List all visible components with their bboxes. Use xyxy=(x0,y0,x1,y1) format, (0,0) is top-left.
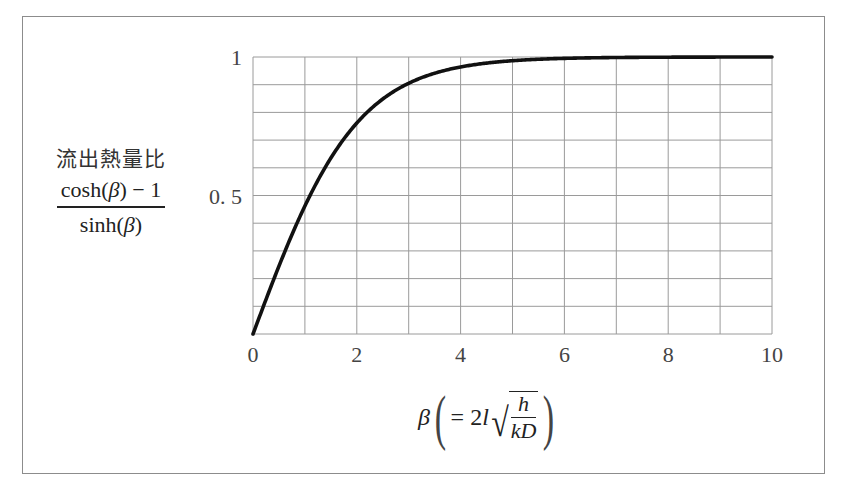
numerator-func: cosh( xyxy=(61,177,109,202)
x-axis-symbol-beta: β xyxy=(418,404,430,431)
sqrt-numerator: h xyxy=(518,392,529,416)
denominator-tail: ) xyxy=(135,212,142,237)
x-tick-label: 10 xyxy=(761,342,783,367)
formula-denominator: sinh(β) xyxy=(57,211,165,239)
x-tick-label: 4 xyxy=(455,342,466,367)
x-tick-label: 8 xyxy=(663,342,674,367)
x-axis-l: l xyxy=(482,404,489,431)
y-axis-tick-labels: 0. 51 xyxy=(209,45,242,209)
x-axis-label: β ( = 2l √ h kD ) xyxy=(418,382,559,452)
y-axis-label: 流出熱量比 cosh(β) − 1 sinh(β) xyxy=(36,146,186,239)
x-tick-label: 6 xyxy=(559,342,570,367)
sqrt-fraction: h kD xyxy=(509,391,539,444)
denominator-func: sinh( xyxy=(80,212,124,237)
right-paren: ) xyxy=(543,386,554,448)
denominator-beta: β xyxy=(124,212,135,237)
left-paren: ( xyxy=(435,386,446,448)
numerator-beta: β xyxy=(108,177,119,202)
chart-grid xyxy=(253,57,772,334)
formula-numerator: cosh(β) − 1 xyxy=(57,176,165,204)
fraction-bar xyxy=(57,206,165,208)
numerator-tail: ) − 1 xyxy=(119,177,161,202)
x-axis-tick-labels: 0246810 xyxy=(248,342,784,367)
sqrt-denominator: kD xyxy=(511,419,537,443)
y-axis-formula: cosh(β) − 1 sinh(β) xyxy=(57,176,165,239)
x-tick-label: 2 xyxy=(351,342,362,367)
sqrt-icon: √ xyxy=(491,403,509,443)
x-axis-equals: = 2 xyxy=(451,404,483,431)
y-axis-title: 流出熱量比 xyxy=(36,146,186,172)
y-tick-label: 1 xyxy=(231,45,242,70)
sqrt-expression: √ h kD xyxy=(489,391,539,444)
y-tick-label: 0. 5 xyxy=(209,184,242,209)
x-tick-label: 0 xyxy=(248,342,259,367)
